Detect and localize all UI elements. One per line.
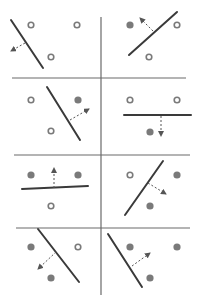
open-point-icon [174, 22, 180, 28]
panel-8 [108, 234, 181, 287]
normal-vector-arrow-icon [11, 43, 25, 51]
open-point-icon [127, 172, 133, 178]
filled-point-icon [126, 243, 133, 250]
panel-7 [27, 229, 80, 282]
normal-vector-arrow-icon [70, 109, 89, 120]
open-point-icon [48, 54, 54, 60]
open-point-icon [75, 244, 81, 250]
open-point-icon [28, 97, 34, 103]
filled-point-icon [146, 202, 153, 209]
open-point-icon [174, 97, 180, 103]
filled-point-icon [74, 171, 81, 178]
open-point-icon [48, 128, 54, 134]
filled-point-icon [146, 128, 153, 135]
decision-boundary-line [108, 234, 142, 287]
perceptron-decision-boundaries-diagram [0, 0, 202, 300]
normal-vector-arrow-icon [38, 252, 56, 269]
normal-vector-arrow-icon [148, 183, 166, 194]
normal-vector-arrow-icon [140, 18, 153, 31]
filled-point-icon [126, 21, 133, 28]
filled-point-icon [47, 274, 54, 281]
open-point-icon [48, 203, 54, 209]
panel-4 [124, 97, 191, 136]
diagram-canvas [0, 0, 202, 300]
filled-point-icon [74, 96, 81, 103]
panel-6 [125, 161, 181, 215]
normal-vector-arrow-icon [132, 253, 150, 266]
decision-boundary-line [129, 12, 177, 55]
filled-point-icon [27, 243, 34, 250]
filled-point-icon [146, 274, 153, 281]
open-point-icon [127, 97, 133, 103]
open-point-icon [146, 54, 152, 60]
panel-3 [28, 87, 89, 140]
filled-point-icon [173, 243, 180, 250]
open-point-icon [74, 22, 80, 28]
panel-1 [11, 20, 80, 68]
filled-point-icon [27, 171, 34, 178]
decision-boundary-line [125, 161, 163, 215]
panel-2 [126, 12, 179, 60]
open-point-icon [28, 22, 34, 28]
filled-point-icon [173, 171, 180, 178]
decision-boundary-line [11, 20, 43, 68]
panel-5 [22, 168, 88, 209]
decision-boundary-line [38, 229, 79, 282]
decision-boundary-line [22, 186, 88, 189]
grid-lines [12, 17, 190, 295]
